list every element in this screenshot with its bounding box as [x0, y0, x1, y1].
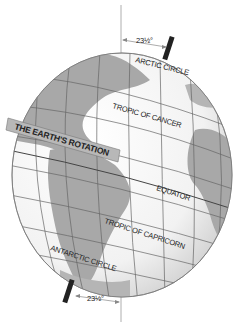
globe [8, 52, 236, 305]
earth-tilt-diagram: THE EARTH'S ROTATION 23½° 23½° ARCTIC CI… [0, 0, 237, 322]
top-angle-annotation: 23½° [122, 36, 167, 49]
top-angle-label: 23½° [136, 36, 153, 45]
north-axis-bar [162, 36, 174, 60]
bottom-angle-label: 23½° [87, 294, 104, 303]
south-axis-bar [62, 279, 74, 303]
